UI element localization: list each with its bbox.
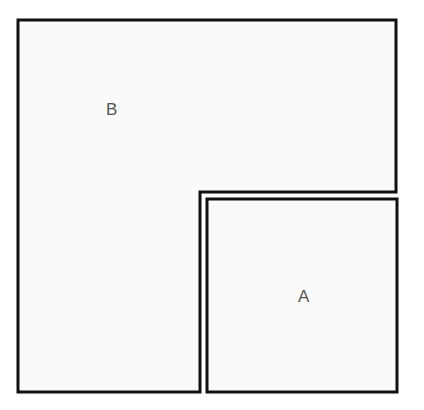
shape-a-label: A [298, 287, 310, 306]
figure-svg: B A [0, 0, 424, 410]
shape-b-label: B [106, 100, 118, 119]
figure-canvas: B A [0, 0, 424, 410]
